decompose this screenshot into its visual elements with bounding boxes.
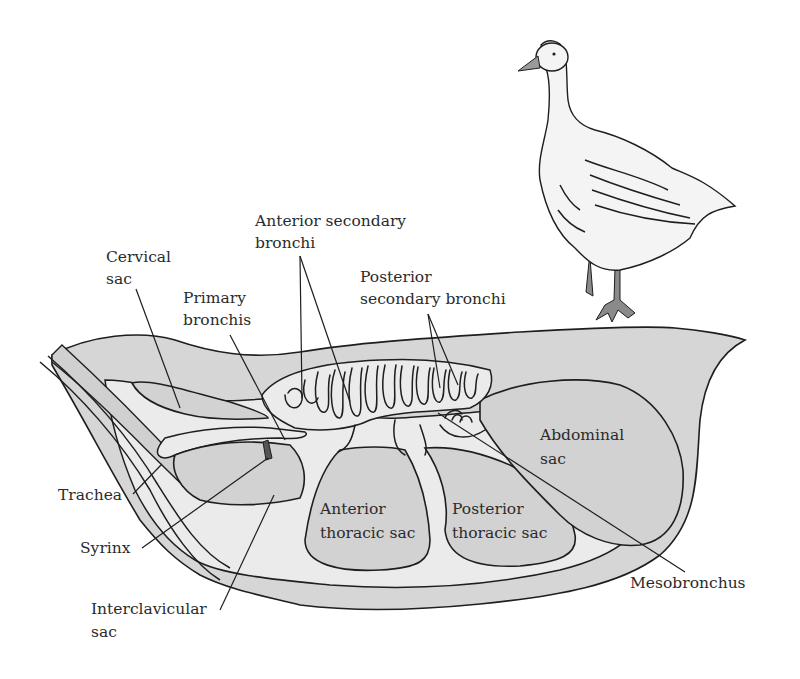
label-abdominal-sac-line1: Abdominal [539, 426, 624, 444]
label-abdominal-sac-line2: sac [540, 450, 566, 468]
label-anterior-secondary-bronchi-line2: bronchi [255, 234, 315, 252]
label-posterior-secondary-bronchi-line1: Posterior [360, 268, 432, 286]
label-anterior-thoracic-sac-line1: Anterior [319, 500, 386, 518]
label-primary-bronchis-line1: Primary [183, 289, 246, 307]
label-trachea: Trachea [58, 486, 122, 504]
label-mesobronchus: Mesobronchus [630, 574, 746, 592]
label-anterior-secondary-bronchi-line1: Anterior secondary [254, 212, 406, 230]
label-syrinx: Syrinx [80, 539, 131, 557]
label-anterior-thoracic-sac-line2: thoracic sac [320, 524, 415, 542]
label-posterior-secondary-bronchi-line2: secondary bronchi [360, 290, 506, 308]
label-cervical-sac-line1: Cervical [106, 248, 171, 266]
avian-respiratory-diagram: Cervical sac Primary bronchis Anterior s… [0, 0, 800, 679]
label-interclavicular-sac-line1: Interclavicular [91, 600, 207, 618]
interclavicular-sac [174, 442, 305, 505]
label-cervical-sac-line2: sac [106, 270, 132, 288]
label-interclavicular-sac-line2: sac [91, 623, 117, 641]
label-posterior-thoracic-sac-line1: Posterior [452, 500, 524, 518]
label-posterior-thoracic-sac-line2: thoracic sac [452, 524, 547, 542]
label-primary-bronchis-line2: bronchis [183, 311, 251, 329]
goose-illustration-icon [518, 41, 735, 322]
